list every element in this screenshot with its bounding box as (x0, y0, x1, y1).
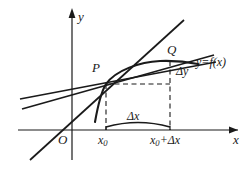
origin-label: O (58, 133, 67, 146)
point-p-label: P (92, 61, 100, 74)
x-axis-label: x (233, 133, 239, 146)
delta-x-brace (106, 123, 170, 128)
point-q-label: Q (167, 43, 176, 56)
y-axis-arrowhead (69, 8, 76, 18)
x0dx-increment: +Δx (160, 133, 180, 147)
diagram-canvas (0, 0, 252, 172)
derivative-diagram: y x O P Q y=f(x) Δy Δx x0 x0+Δx (0, 0, 252, 172)
delta-y-label: Δy (176, 65, 188, 77)
function-label: y=f(x) (196, 56, 226, 68)
x0-plus-dx-axis-label: x0+Δx (150, 134, 180, 148)
x0-axis-label: x0 (98, 134, 108, 148)
x0-subscript: 0 (103, 138, 107, 148)
y-axis-label: y (78, 10, 84, 23)
delta-x-label: Δx (127, 110, 139, 122)
